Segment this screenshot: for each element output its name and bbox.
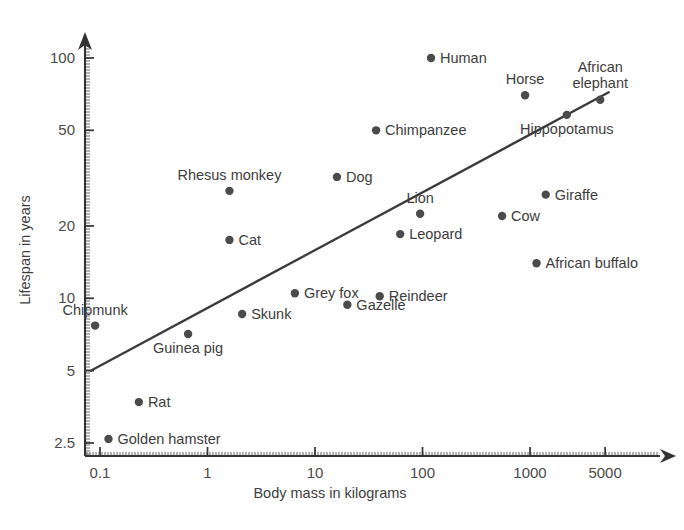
data-point [372,126,380,134]
x-tick-label: 1000 [513,464,546,481]
y-axis-minor-ticks [86,46,90,454]
y-tick-label: 2.5 [54,434,75,451]
data-points [91,54,605,443]
x-axis-minor-ticks [87,452,657,455]
data-point-label: Rat [148,394,171,410]
data-point-label: Chipmunk [62,302,128,318]
data-point-label: Dog [346,169,373,185]
data-point-label: Cat [238,232,261,248]
x-tick-label: 5000 [588,464,621,481]
data-point [521,91,529,99]
data-point-label: Reindeer [389,288,448,304]
data-point [91,321,99,329]
data-point [563,111,571,119]
x-tick-label: 0.1 [90,464,111,481]
lifespan-vs-body-mass-chart: 0.1110100100050002.55102050100 Golden ha… [0,0,684,530]
data-point [225,187,233,195]
data-point [104,435,112,443]
y-tick-label: 5 [67,362,75,379]
data-point [225,236,233,244]
data-point-label: Guinea pig [153,340,223,356]
data-point-labels: Golden hamsterChipmunkRatGuinea pigCatRh… [62,50,638,447]
data-point-label: Human [440,50,487,66]
data-point [333,173,341,181]
data-point-label: Leopard [409,226,462,242]
data-point [596,96,604,104]
data-point-label: African [578,59,623,75]
chart-canvas: 0.1110100100050002.55102050100 Golden ha… [0,0,684,530]
data-point-label: Rhesus monkey [177,167,282,183]
data-point [532,259,540,267]
data-point [427,54,435,62]
x-tick-label: 1 [203,464,211,481]
data-point-label: Golden hamster [118,431,221,447]
data-point-label: Skunk [251,306,292,322]
data-point-label: Hippopotamus [520,121,614,137]
data-point-label: Giraffe [555,187,598,203]
data-point [416,209,424,217]
x-tick-label: 100 [410,464,435,481]
data-point [498,212,506,220]
data-point [135,398,143,406]
data-point-label: Grey fox [304,285,360,301]
data-point [542,190,550,198]
data-point-label: African buffalo [546,255,638,271]
data-point [291,289,299,297]
data-point [396,230,404,238]
y-tick-label: 50 [58,121,75,138]
data-point [343,301,351,309]
data-point [184,330,192,338]
y-axis-title: Lifespan in years [17,195,33,305]
x-axis-title: Body mass in kilograms [253,485,406,501]
data-point [238,310,246,318]
data-point-label: Chimpanzee [385,122,466,138]
x-tick-label: 10 [307,464,324,481]
data-point-label: elephant [572,75,628,91]
data-point-label: Horse [506,71,545,87]
y-tick-label: 100 [50,49,75,66]
data-point-label: Cow [511,208,541,224]
y-tick-label: 20 [58,217,75,234]
data-point-label: Lion [406,190,433,206]
